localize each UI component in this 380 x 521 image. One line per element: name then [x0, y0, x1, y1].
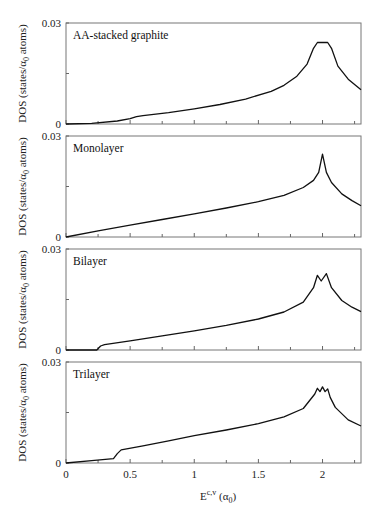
y-tick-label-zero: 0: [56, 344, 62, 356]
panel-label: Monolayer: [73, 142, 124, 155]
panels: 0.030AA-stacked graphiteDOS (states/α0 a…: [16, 17, 361, 469]
y-tick-label-zero: 0: [56, 457, 62, 469]
panel-trilayer: 0.030TrilayerDOS (states/α0 atoms): [16, 356, 361, 469]
x-tick-label: 2: [320, 468, 326, 480]
dos-curve: [66, 43, 361, 125]
panel-label: AA-stacked graphite: [73, 29, 168, 42]
dos-curve: [66, 387, 361, 463]
x-tick-label: 1: [192, 468, 198, 480]
y-axis-label: DOS (states/α0 atoms): [16, 24, 31, 123]
panel-bilayer: 0.030BilayerDOS (states/α0 atoms): [16, 243, 361, 356]
x-tick-label: 1.5: [252, 468, 266, 480]
plot-frame: [66, 249, 361, 350]
y-tick-label-top: 0.03: [42, 356, 62, 368]
y-tick-label-top: 0.03: [42, 130, 62, 142]
plot-frame: [66, 362, 361, 463]
y-tick-label-top: 0.03: [42, 17, 62, 29]
x-axis-label: Ec,v (α0): [200, 488, 236, 505]
dos-figure: 0.030AA-stacked graphiteDOS (states/α0 a…: [0, 0, 380, 521]
panel-monolayer: 0.030MonolayerDOS (states/α0 atoms): [16, 130, 361, 243]
panel-label: Bilayer: [73, 255, 107, 268]
y-tick-label-top: 0.03: [42, 243, 62, 255]
y-axis-label: DOS (states/α0 atoms): [16, 363, 31, 462]
dos-curve: [66, 154, 361, 237]
x-tick-label: 0.5: [123, 468, 137, 480]
x-axis: 00.511.52: [63, 468, 325, 480]
panel-label: Trilayer: [73, 368, 110, 381]
dos-curve: [66, 274, 361, 350]
y-tick-label-zero: 0: [56, 118, 62, 130]
y-tick-label-zero: 0: [56, 231, 62, 243]
x-tick-label: 0: [63, 468, 69, 480]
y-axis-label: DOS (states/α0 atoms): [16, 137, 31, 236]
y-axis-label: DOS (states/α0 atoms): [16, 250, 31, 349]
panel-aa-stacked-graphite: 0.030AA-stacked graphiteDOS (states/α0 a…: [16, 17, 361, 130]
